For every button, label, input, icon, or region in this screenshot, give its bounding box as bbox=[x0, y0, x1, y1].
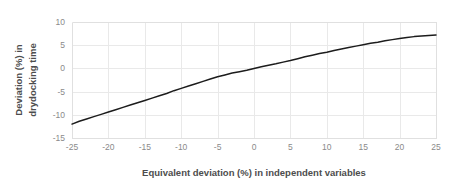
y-tick-label: 5 bbox=[60, 40, 65, 50]
x-tick-label: 15 bbox=[358, 142, 368, 152]
x-tick-label: 0 bbox=[252, 142, 257, 152]
x-tick-label: 20 bbox=[395, 142, 405, 152]
x-tick-label: 25 bbox=[431, 142, 441, 152]
x-tick-label: -15 bbox=[139, 142, 152, 152]
x-tick-label: -25 bbox=[66, 142, 79, 152]
x-tick-label: -20 bbox=[102, 142, 115, 152]
x-tick-label: 10 bbox=[322, 142, 332, 152]
x-tick-label: -5 bbox=[214, 142, 222, 152]
y-tick-label: -15 bbox=[53, 133, 66, 143]
x-tick-label: -10 bbox=[175, 142, 188, 152]
y-tick-label: 10 bbox=[56, 17, 66, 27]
y-tick-label: -5 bbox=[57, 87, 65, 97]
x-tick-label: 5 bbox=[288, 142, 293, 152]
y-tick-labels: -15-10-50510 bbox=[53, 17, 66, 143]
chart-svg: -25-20-15-10-50510152025 -15-10-50510 Eq… bbox=[0, 0, 461, 184]
y-tick-label: 0 bbox=[60, 63, 65, 73]
y-axis-title-line2: drydocking time bbox=[27, 43, 38, 116]
chart-container: -25-20-15-10-50510152025 -15-10-50510 Eq… bbox=[0, 0, 461, 184]
gridlines-group bbox=[72, 22, 437, 139]
x-axis-title: Equivalent deviation (%) in independent … bbox=[142, 167, 366, 178]
x-tick-labels: -25-20-15-10-50510152025 bbox=[66, 142, 441, 152]
y-tick-label: -10 bbox=[53, 110, 66, 120]
y-axis-title-line1: Deviation (%) in bbox=[13, 44, 24, 115]
